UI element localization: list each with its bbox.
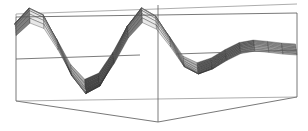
surface-quad [44,17,58,45]
surface-mesh [15,8,298,94]
box-edge-back-top [16,4,297,14]
box-edge-front-top [16,13,297,17]
box-edge-bottom-left-span [16,101,158,122]
surface-plot-canvas [0,0,308,131]
mid-plane-left [16,55,140,59]
surface-quad [58,48,72,76]
surface-quad [114,29,128,61]
surface-quad [44,24,58,50]
surface-quad [44,20,58,48]
box-edge-back-bottom [16,97,297,101]
box-edge-bottom-right-span [158,97,297,122]
surface-plot-figure [0,0,308,131]
